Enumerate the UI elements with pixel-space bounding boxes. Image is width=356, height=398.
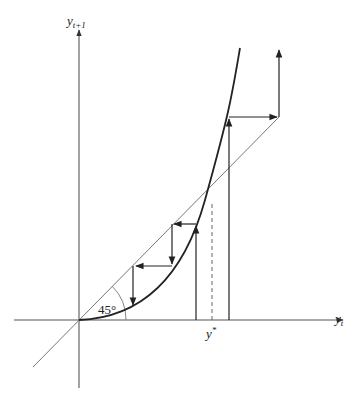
y-axis-label: yt+1 bbox=[67, 14, 86, 30]
cobweb-diagram bbox=[0, 0, 356, 398]
x-axis-label: yt bbox=[335, 312, 343, 328]
45-degree-line bbox=[33, 117, 279, 367]
angle-label: 45° bbox=[98, 303, 116, 316]
fixed-point-label: y* bbox=[206, 326, 216, 340]
convex-curve bbox=[79, 48, 240, 320]
